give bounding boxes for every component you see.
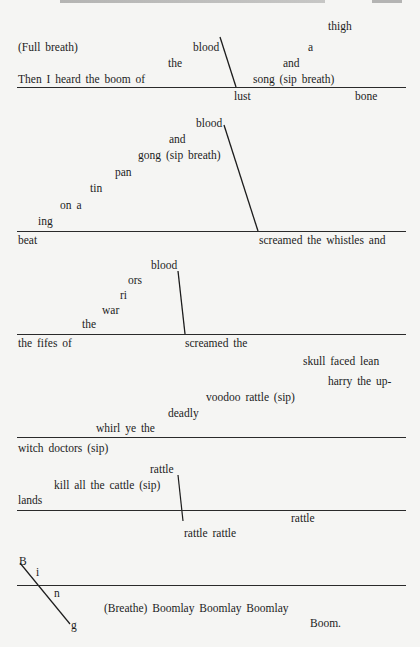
phrase-rattle-rattle: rattle rattle: [184, 527, 236, 539]
diagonal-stroke-2: [224, 125, 258, 231]
word-tin: tin: [90, 182, 102, 194]
word-war: war: [102, 304, 119, 316]
word-a: a: [308, 41, 313, 53]
poem-page: thigh (Full breath) blood a the and Then…: [0, 0, 420, 647]
page-number-cropped: [372, 0, 402, 3]
letter-n: n: [54, 587, 60, 599]
word-blood-3: blood: [151, 259, 177, 271]
word-and: and: [283, 57, 300, 69]
baseline-rule-2: [17, 231, 406, 232]
phrase-skull-faced-lean: skull faced lean: [303, 355, 379, 367]
word-and-2: and: [169, 133, 186, 145]
word-on-a: on a: [60, 199, 81, 211]
baseline-rule-4: [17, 437, 406, 438]
direction-full-breath: (Full breath): [18, 41, 78, 53]
word-thigh: thigh: [328, 20, 352, 32]
running-head-cropped: [60, 0, 325, 3]
word-lust: lust: [234, 90, 251, 102]
baseline-rule-5: [17, 510, 406, 511]
word-the: the: [168, 57, 182, 69]
phrase-kill-all-the-cattle: kill all the cattle (sip): [54, 479, 160, 491]
word-deadly: deadly: [168, 407, 199, 419]
diagonal-stroke-3: [178, 271, 185, 334]
diagonal-stroke-5: [20, 563, 70, 624]
word-ors: ors: [128, 274, 142, 286]
word-ing: ing: [38, 215, 53, 227]
phrase-witch-doctors: witch doctors (sip): [18, 442, 108, 454]
word-rattle-top: rattle: [150, 463, 174, 475]
diagonal-stroke-1: [220, 37, 236, 87]
baseline-rule-3: [17, 334, 406, 335]
phrase-screamed-the: screamed the: [185, 337, 247, 349]
phrase-whirl-ye-the: whirl ye the: [96, 422, 155, 434]
word-rattle-right: rattle: [291, 512, 315, 524]
letter-g: g: [71, 619, 77, 631]
word-bone: bone: [355, 90, 377, 102]
baseline-rule-1: [17, 87, 406, 88]
word-blood-2: blood: [196, 117, 222, 129]
word-blood: blood: [193, 41, 219, 53]
phrase-the-fifes-of: the fifes of: [18, 337, 72, 349]
word-lands: lands: [18, 494, 42, 506]
phrase-voodoo-rattle: voodoo rattle (sip): [206, 391, 295, 403]
word-pan: pan: [115, 166, 132, 178]
letter-b: B: [19, 555, 27, 567]
baseline-rule-6: [17, 585, 406, 586]
word-gong: gong (sip breath): [138, 149, 221, 161]
letter-i: i: [36, 566, 39, 578]
word-the-3: the: [82, 318, 96, 330]
line-then-i-heard: Then I heard the boom of: [18, 73, 145, 85]
word-song: song (sip breath): [253, 73, 334, 85]
diagonal-stroke-4: [178, 475, 183, 521]
word-boom: Boom.: [310, 617, 341, 629]
phrase-breathe-boomlay: (Breathe) Boomlay Boomlay Boomlay: [104, 602, 289, 614]
phrase-harry-the-up: harry the up-: [328, 375, 391, 387]
phrase-screamed-whistles: screamed the whistles and: [259, 234, 385, 246]
word-ri: ri: [120, 289, 127, 301]
word-beat: beat: [18, 234, 37, 246]
